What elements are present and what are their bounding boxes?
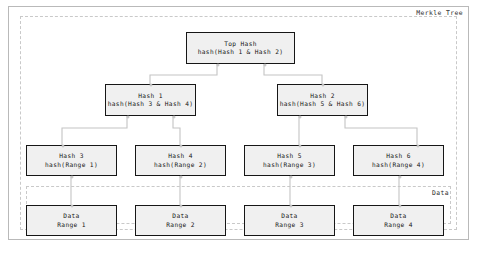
node-hash-6[interactable]: Hash 6 hash(Range 4) [353, 145, 444, 176]
port-hash-1-top [150, 84, 153, 87]
node-data-range-3[interactable]: Data Range 3 [244, 205, 335, 236]
node-hash-4-title: Hash 4 [168, 152, 192, 160]
node-data-range-2-value: Range 2 [166, 221, 195, 229]
node-hash-1-title: Hash 1 [138, 92, 162, 100]
node-hash-1[interactable]: Hash 1 hash(Hash 3 & Hash 4) [105, 84, 196, 116]
port-data-4-top [399, 205, 402, 208]
node-data-range-4[interactable]: Data Range 4 [353, 205, 444, 236]
port-hash-2-right [345, 116, 348, 119]
node-hash-3-title: Hash 3 [59, 152, 83, 160]
node-hash-3-formula: hash(Range 1) [45, 161, 98, 169]
port-hash-3-top [62, 145, 65, 148]
node-data-range-4-value: Range 4 [384, 221, 413, 229]
node-data-range-1-title: Data [63, 212, 79, 220]
node-top-hash-formula: hash(Hash 1 & Hash 2) [198, 48, 284, 56]
port-hash-6-top [417, 145, 420, 148]
port-top-hash-left [217, 64, 220, 67]
node-hash-6-title: Hash 6 [386, 152, 410, 160]
node-data-range-3-value: Range 3 [275, 221, 304, 229]
node-hash-1-formula: hash(Hash 3 & Hash 4) [108, 100, 194, 108]
port-data-3-top [290, 205, 293, 208]
port-hash-1-right [173, 116, 176, 119]
node-data-range-4-title: Data [390, 212, 406, 220]
node-hash-2-formula: hash(Hash 5 & Hash 6) [280, 100, 366, 108]
port-hash-1-left [127, 116, 130, 119]
node-hash-4-formula: hash(Range 2) [154, 161, 207, 169]
node-hash-3[interactable]: Hash 3 hash(Range 1) [26, 145, 117, 176]
merkle-tree-diagram: Merkle Tree Data Top Hash [0, 0, 477, 256]
node-hash-4[interactable]: Hash 4 hash(Range 2) [135, 145, 226, 176]
port-hash-4-bottom [180, 176, 183, 179]
port-hash-2-left [299, 116, 302, 119]
node-top-hash[interactable]: Top Hash hash(Hash 1 & Hash 2) [186, 32, 295, 64]
port-data-1-top [71, 205, 74, 208]
node-data-range-2-title: Data [172, 212, 188, 220]
node-data-range-3-title: Data [281, 212, 297, 220]
node-top-hash-title: Top Hash [224, 40, 257, 48]
port-hash-5-bottom [290, 176, 293, 179]
port-hash-4-top [180, 145, 183, 148]
port-hash-2-top [322, 84, 325, 87]
node-hash-5-formula: hash(Range 3) [263, 161, 316, 169]
port-hash-6-bottom [399, 176, 402, 179]
node-hash-5[interactable]: Hash 5 hash(Range 3) [244, 145, 335, 176]
node-data-range-2[interactable]: Data Range 2 [135, 205, 226, 236]
port-hash-3-bottom [71, 176, 74, 179]
port-data-2-top [180, 205, 183, 208]
node-data-range-1-value: Range 1 [57, 221, 86, 229]
node-hash-2[interactable]: Hash 2 hash(Hash 5 & Hash 6) [277, 84, 368, 116]
node-hash-5-title: Hash 5 [277, 152, 301, 160]
port-top-hash-right [264, 64, 267, 67]
port-hash-5-top [299, 145, 302, 148]
node-data-range-1[interactable]: Data Range 1 [26, 205, 117, 236]
node-hash-2-title: Hash 2 [310, 92, 334, 100]
node-hash-6-formula: hash(Range 4) [372, 161, 425, 169]
